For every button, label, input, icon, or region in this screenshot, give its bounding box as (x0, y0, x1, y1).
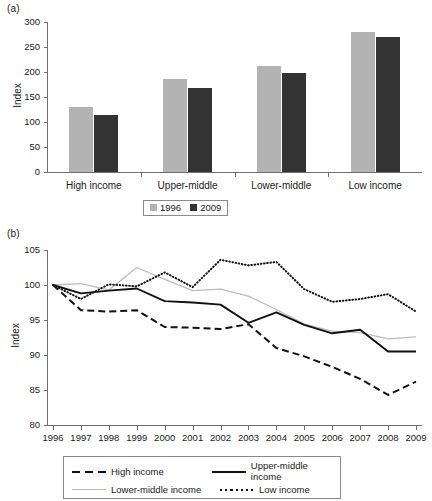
bar-1996-high-income (69, 107, 93, 172)
legend-swatch-2009 (190, 204, 197, 211)
x-tick-mark-b (332, 426, 333, 430)
line-series-svg (47, 250, 422, 425)
legend-item-high-income: High income (72, 466, 212, 477)
legend-label-1996: 1996 (160, 202, 181, 213)
x-tick-mark-b (109, 426, 110, 430)
line-series-high-income (53, 285, 416, 395)
bar-2009-low-income (376, 37, 400, 172)
y-tick-label-b: 90 (8, 349, 40, 360)
legend-label-2009: 2009 (200, 202, 221, 213)
x-tick-mark-b (276, 426, 277, 430)
legend-item-2009: 2009 (190, 202, 221, 213)
bar-2009-high-income (94, 115, 118, 172)
x-group-separator-a (141, 173, 142, 177)
panel-a-label: (a) (7, 3, 20, 14)
y-tick-label-a: 0 (8, 166, 40, 177)
y-tick-label-a: 100 (8, 116, 40, 127)
x-group-separator-a (235, 173, 236, 177)
x-tick-label-2009: 2009 (400, 432, 432, 443)
x-tick-mark-b (165, 426, 166, 430)
x-tick-mark-b (137, 426, 138, 430)
line-plot-area (47, 250, 422, 425)
y-tick-label-b: 80 (8, 419, 40, 430)
y-tick-label-b: 100 (8, 279, 40, 290)
legend-item-1996: 1996 (150, 202, 181, 213)
x-tick-mark-b (53, 426, 54, 430)
bar-1996-upper-middle (163, 79, 187, 172)
line-series-upper-middle-income (53, 285, 416, 352)
y-tick-label-a: 50 (8, 141, 40, 152)
x-tick-mark-b (193, 426, 194, 430)
legend-label-high-income: High income (111, 466, 164, 477)
line-chart-panel-b: (b) Index 80859095100105 199619971998199… (0, 225, 432, 501)
legend-row-1: High income Upper-middle income (72, 460, 334, 482)
legend-key-solid-icon (212, 467, 246, 476)
legend-key-dotted-icon (220, 485, 254, 494)
legend-label-low-income: Low income (259, 484, 310, 495)
legend-panel-a: 1996 2009 (143, 200, 228, 216)
x-tick-mark-b (388, 426, 389, 430)
x-tick-mark-b (81, 426, 82, 430)
bar-plot-area (47, 22, 422, 172)
panel-b-label: (b) (7, 228, 20, 239)
legend-swatch-1996 (150, 204, 157, 211)
y-tick-label-a: 250 (8, 41, 40, 52)
bar-2009-upper-middle (188, 88, 212, 173)
y-tick-label-b: 85 (8, 384, 40, 395)
legend-item-low-income: Low income (220, 484, 310, 495)
x-tick-mark-b (360, 426, 361, 430)
line-series-low-income (53, 260, 416, 312)
x-group-label-high-income: High income (47, 180, 141, 191)
bar-chart-panel-a: (a) Index 050100150200250300 High income… (0, 0, 432, 222)
x-group-label-low-income: Low income (328, 180, 422, 191)
bar-1996-low-income (351, 32, 375, 172)
x-tick-mark-b (304, 426, 305, 430)
legend-item-upper-middle-income: Upper-middle income (212, 460, 334, 482)
y-tick-label-a: 200 (8, 66, 40, 77)
legend-item-lower-middle-income: Lower-middle income (72, 484, 220, 495)
x-axis-line-b (47, 425, 422, 426)
legend-key-dashed-icon (72, 467, 106, 476)
x-tick-mark-b (416, 426, 417, 430)
y-tick-label-a: 300 (8, 16, 40, 27)
x-group-label-lower-middle: Lower-middle (235, 180, 329, 191)
legend-panel-b: High income Upper-middle income Lower-mi… (63, 456, 341, 499)
y-tick-label-b: 95 (8, 314, 40, 325)
x-group-label-upper-middle: Upper-middle (141, 180, 235, 191)
figure-container: (a) Index 050100150200250300 High income… (0, 0, 432, 501)
y-tick-label-b: 105 (8, 244, 40, 255)
bar-1996-lower-middle (257, 66, 281, 172)
legend-row-2: Lower-middle income Low income (72, 484, 334, 495)
legend-key-light-solid-icon (72, 485, 106, 494)
bar-2009-lower-middle (282, 73, 306, 173)
x-tick-mark-b (221, 426, 222, 430)
legend-label-upper-middle-income: Upper-middle income (251, 460, 334, 482)
legend-label-lower-middle-income: Lower-middle income (111, 484, 201, 495)
x-tick-mark-b (248, 426, 249, 430)
line-series-lower-middle-income (53, 268, 416, 339)
y-tick-label-a: 150 (8, 91, 40, 102)
x-group-separator-a (328, 173, 329, 177)
